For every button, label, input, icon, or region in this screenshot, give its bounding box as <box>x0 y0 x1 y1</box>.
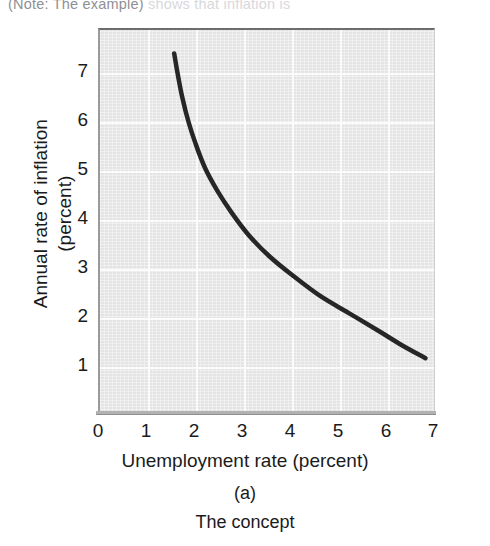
x-axis-rule <box>96 411 436 415</box>
x-tick-label-5: 5 <box>326 420 350 442</box>
x-tick-label-4: 4 <box>278 420 302 442</box>
plot-area <box>98 28 435 413</box>
x-tick-label-2: 2 <box>182 420 206 442</box>
phillips-curve-path <box>174 53 425 358</box>
y-axis-title-line1: Annual rate of inflation <box>30 119 51 308</box>
y-axis-title: Annual rate of inflation (percent) <box>29 49 77 379</box>
x-tick-label-3: 3 <box>230 420 254 442</box>
figure-caption: The concept <box>0 512 490 533</box>
x-axis-title: Unemployment rate (percent) <box>0 450 490 472</box>
x-tick-label-7: 7 <box>421 420 445 442</box>
x-tick-label-6: 6 <box>374 420 398 442</box>
figure-panel-letter: (a) <box>0 483 490 504</box>
phillips-curve-line <box>100 30 435 413</box>
phillips-curve-figure: 0 1 2 3 4 5 6 7 7 6 5 4 3 2 1 Unemployme… <box>0 0 490 546</box>
x-tick-label-1: 1 <box>134 420 158 442</box>
y-axis-title-line2: (percent) <box>53 49 77 379</box>
x-tick-label-0: 0 <box>86 420 110 442</box>
